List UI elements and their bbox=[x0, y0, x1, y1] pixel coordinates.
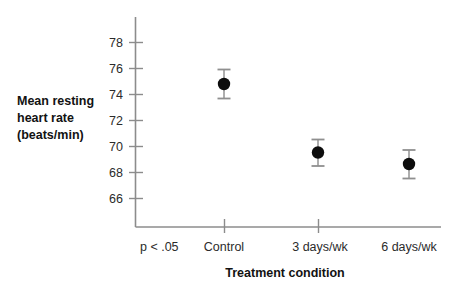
data-point-control bbox=[218, 70, 231, 99]
x-category-labels: p < .05 Control 3 days/wk 6 days/wk bbox=[140, 240, 438, 254]
x-tick-marks bbox=[225, 219, 319, 233]
x-axis-significance-note: p < .05 bbox=[140, 240, 179, 254]
figure-container: 78 76 74 72 70 68 66 bbox=[0, 0, 452, 287]
y-tick-label-66: 66 bbox=[109, 192, 123, 206]
data-series-mean-resting-heart-rate bbox=[218, 70, 416, 179]
y-tick-label-72: 72 bbox=[109, 114, 123, 128]
marker-6-days-wk bbox=[403, 158, 415, 170]
data-point-6-days-wk bbox=[403, 150, 416, 179]
heart-rate-error-bar-chart: 78 76 74 72 70 68 66 bbox=[0, 0, 452, 287]
y-tick-labels: 78 76 74 72 70 68 66 bbox=[109, 36, 123, 206]
y-tick-label-74: 74 bbox=[109, 88, 123, 102]
y-tick-label-68: 68 bbox=[109, 166, 123, 180]
x-category-label-control: Control bbox=[204, 240, 244, 254]
y-tick-label-70: 70 bbox=[109, 140, 123, 154]
marker-control bbox=[218, 78, 230, 90]
y-axis-title-line-2: heart rate bbox=[17, 111, 74, 125]
data-point-3-days-wk bbox=[312, 140, 325, 167]
y-axis-title-line-1: Mean resting bbox=[17, 94, 94, 108]
x-axis-title: Treatment condition bbox=[225, 266, 344, 280]
x-category-label-3-days-wk: 3 days/wk bbox=[292, 240, 348, 254]
y-axis-title: Mean resting heart rate (beats/min) bbox=[17, 94, 94, 142]
y-tick-label-76: 76 bbox=[109, 62, 123, 76]
marker-3-days-wk bbox=[312, 146, 324, 158]
x-category-label-6-days-wk: 6 days/wk bbox=[381, 240, 437, 254]
y-axis-title-line-3: (beats/min) bbox=[17, 128, 84, 142]
y-tick-label-78: 78 bbox=[109, 36, 123, 50]
